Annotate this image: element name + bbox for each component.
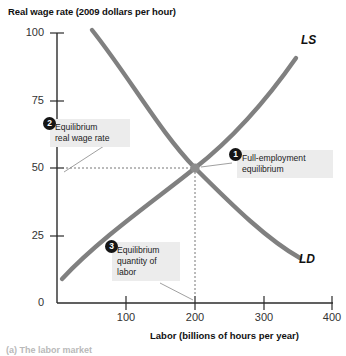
figure-caption: (a) The labor market	[6, 345, 92, 355]
y-tick-label-75: 75	[18, 94, 44, 106]
labor-demand-curve-label: LD	[299, 252, 315, 266]
callout-1-box: Full-employment equilibrium	[237, 150, 333, 178]
labor-supply-curve-label: LS	[301, 33, 316, 47]
callout-3-leader	[160, 283, 193, 300]
x-tick-label-400: 400	[317, 311, 346, 323]
x-tick-label-300: 300	[249, 311, 279, 323]
y-tick-label-50: 50	[18, 161, 44, 173]
y-tick-label-0: 0	[18, 296, 44, 308]
callout-1-badge: 1	[229, 148, 242, 161]
y-tick-label-25: 25	[18, 229, 44, 241]
callout-2-badge: 2	[43, 117, 56, 130]
y-tick-label-100: 100	[18, 26, 44, 38]
callout-2-box: Equilibrium real wage rate	[50, 119, 130, 147]
callout-3-box: Equilibrium quantity of labor	[112, 242, 180, 281]
x-tick-label-100: 100	[111, 311, 141, 323]
callout-1-leader	[201, 163, 232, 167]
callout-3-badge: 3	[105, 240, 118, 253]
x-tick-label-200: 200	[180, 311, 210, 323]
x-axis-title: Labor (billions of hours per year)	[150, 330, 299, 341]
equilibrium-point	[190, 163, 199, 172]
